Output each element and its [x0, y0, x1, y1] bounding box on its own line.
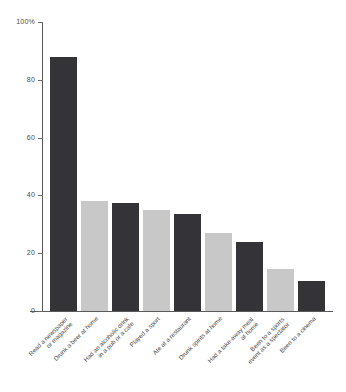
bar[interactable]	[50, 57, 77, 311]
x-axis-line	[30, 311, 333, 312]
bar[interactable]	[174, 214, 201, 311]
y-axis-tick: 60	[0, 138, 43, 139]
y-axis-tick-label: 60	[27, 132, 35, 143]
y-axis-tick: 80	[0, 80, 43, 81]
bar[interactable]	[112, 203, 139, 311]
bar[interactable]	[267, 269, 294, 311]
tick-mark	[38, 311, 43, 312]
bar-chart: 100%806040200 Read a newspaperor magazin…	[0, 0, 346, 392]
bar[interactable]	[236, 242, 263, 311]
y-axis-tick-label: 40	[27, 189, 35, 200]
plot-area	[43, 22, 333, 311]
bar[interactable]	[143, 210, 170, 311]
y-axis-tick: 20	[0, 253, 43, 254]
bar[interactable]	[205, 233, 232, 311]
x-axis-label-line1: Played a sport	[128, 315, 161, 348]
y-axis-tick: 0	[0, 311, 43, 312]
bar[interactable]	[298, 281, 325, 311]
y-axis-tick: 40	[0, 195, 43, 196]
bar[interactable]	[81, 201, 108, 311]
y-axis-tick-label: 80	[27, 74, 35, 85]
y-axis-tick: 100%	[0, 22, 43, 23]
x-axis-label[interactable]: Played a sport	[128, 315, 161, 348]
y-axis-tick-label: 20	[27, 247, 35, 258]
y-axis-tick-label: 0	[31, 305, 35, 316]
x-axis-label[interactable]: Read a newspaperor magazine	[27, 315, 74, 362]
y-axis-tick-label: 100%	[16, 16, 35, 27]
